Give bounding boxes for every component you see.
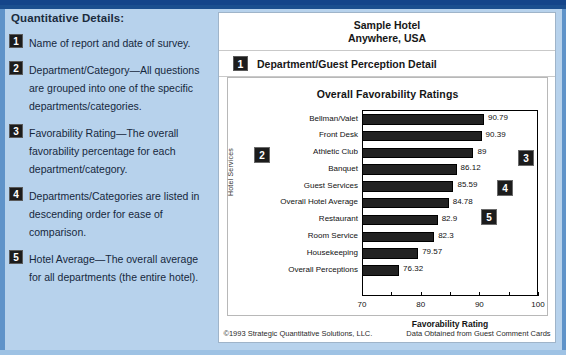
chart-category-label: Overall Perceptions (288, 265, 358, 274)
chart-category-label: Restaurant (319, 214, 358, 223)
chart-bar-row: Overall Perceptions76.32 (362, 262, 538, 279)
chart-bar (362, 265, 399, 276)
report-subheader: 1 Department/Guest Perception Detail (219, 51, 555, 77)
chart-bar-row: Overall Hotel Average84.78 (362, 195, 538, 212)
detail-item-text-3: Favorability Rating—The overall favorabi… (29, 127, 178, 175)
x-tick-mark (538, 292, 539, 296)
chart-bar (362, 181, 453, 192)
item-number-badge-5: 5 (9, 250, 23, 264)
hotel-name: Sample Hotel (219, 19, 555, 32)
chart-bar-row: Room Service82.3 (362, 229, 538, 246)
chart-callout-badge-2: 2 (254, 147, 270, 163)
quantitative-details-panel: Quantitative Details: 1 Name of report a… (9, 12, 209, 347)
top-band (0, 0, 566, 9)
chart-value-label: 79.57 (422, 247, 442, 256)
report-footer: ©1993 Strategic Quantitative Solutions, … (219, 329, 555, 338)
copyright-text: ©1993 Strategic Quantitative Solutions, … (223, 329, 372, 338)
chart-category-label: Guest Services (304, 181, 358, 190)
left-frame-edge (0, 9, 5, 355)
item-number-badge-3: 3 (9, 124, 23, 138)
chart-bar-row: Housekeeping79.57 (362, 245, 538, 262)
chart-bar (362, 215, 438, 226)
detail-item-3: 3 Favorability Rating—The overall favora… (9, 123, 209, 177)
detail-item-text-2: Department/Category—All questions are gr… (29, 64, 199, 112)
chart-bar-row: Front Desk90.39 (362, 128, 538, 145)
chart-bar (362, 198, 449, 209)
chart-category-label: Front Desk (319, 130, 358, 139)
chart-value-label: 82.3 (438, 231, 454, 240)
x-tick-label: 80 (416, 300, 425, 309)
chart-bar (362, 114, 484, 125)
right-frame-edge (562, 9, 566, 355)
report-subtitle: Department/Guest Perception Detail (257, 58, 437, 70)
chart-category-label: Room Service (308, 231, 358, 240)
chart-callout-badge-5: 5 (481, 209, 497, 225)
chart-category-label: Housekeeping (307, 248, 358, 257)
data-source-text: Data Obtained from Guest Comment Cards (406, 329, 550, 338)
chart-callout-badge-3: 3 (518, 150, 534, 166)
x-tick-label: 100 (531, 300, 544, 309)
chart-title: Overall Favorability Ratings (228, 88, 547, 100)
x-tick-mark (450, 292, 451, 296)
detail-item-2: 2 Department/Category—All questions are … (9, 60, 209, 114)
detail-item-5: 5 Hotel Average—The overall average for … (9, 249, 209, 285)
chart-value-label: 84.78 (453, 197, 473, 206)
item-number-badge-4: 4 (9, 187, 23, 201)
bottom-frame-edge (0, 350, 566, 355)
item-number-badge-2: 2 (9, 61, 23, 75)
chart-bar (362, 232, 434, 243)
detail-item-text-4: Departments/Categories are listed in des… (29, 190, 199, 238)
detail-item-text-5: Hotel Average—The overall average for al… (29, 253, 198, 283)
detail-item-text-1: Name of report and date of survey. (29, 37, 190, 49)
hotel-location: Anywhere, USA (219, 32, 555, 45)
chart-value-label: 76.32 (403, 264, 423, 273)
x-tick-mark (362, 292, 363, 296)
x-tick-mark (479, 292, 480, 296)
chart-callout-badge-4: 4 (497, 180, 513, 196)
chart-bar-row: Bellman/Valet90.79 (362, 111, 538, 128)
chart-bar-row: Restaurant82.9 (362, 212, 538, 229)
chart-plot-area: Bellman/Valet90.79Front Desk90.39Athleti… (362, 110, 538, 296)
x-tick-mark (509, 292, 510, 296)
x-tick-label: 70 (358, 300, 367, 309)
chart-value-label: 90.39 (486, 130, 506, 139)
panel-title: Quantitative Details: (11, 12, 209, 24)
chart-y-axis-label: Hotel Services (227, 148, 234, 196)
chart-category-label: Overall Hotel Average (280, 197, 358, 206)
chart-category-label: Bellman/Valet (309, 114, 358, 123)
subheader-number-badge: 1 (233, 56, 248, 71)
x-tick-label: 90 (475, 300, 484, 309)
chart-bar (362, 131, 482, 142)
chart-bar-row: Athletic Club89 (362, 145, 538, 162)
chart-x-axis-label: Favorability Rating (362, 319, 538, 329)
chart-value-label: 85.59 (457, 180, 477, 189)
chart-value-label: 86.12 (461, 163, 481, 172)
chart-bar (362, 248, 418, 259)
report-card: Sample Hotel Anywhere, USA 1 Department/… (218, 12, 556, 343)
chart-bar (362, 164, 457, 175)
detail-item-1: 1 Name of report and date of survey. (9, 33, 209, 51)
chart-container: Overall Favorability Ratings Hotel Servi… (227, 77, 548, 316)
chart-category-label: Athletic Club (313, 147, 358, 156)
chart-bar (362, 148, 473, 159)
chart-value-label: 82.9 (442, 214, 458, 223)
x-tick-mark (391, 292, 392, 296)
report-header: Sample Hotel Anywhere, USA (219, 13, 555, 51)
detail-item-4: 4 Departments/Categories are listed in d… (9, 186, 209, 240)
x-tick-mark (421, 292, 422, 296)
item-number-badge-1: 1 (9, 34, 23, 48)
screenshot-root: Quantitative Details: 1 Name of report a… (0, 0, 566, 355)
chart-value-label: 89 (477, 147, 486, 156)
chart-category-label: Banquet (328, 164, 358, 173)
chart-value-label: 90.79 (488, 113, 508, 122)
chart-bar-row: Banquet86.12 (362, 161, 538, 178)
